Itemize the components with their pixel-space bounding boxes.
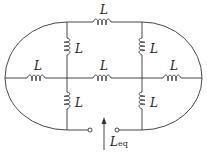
upper-right-vertical-wire [139, 22, 145, 78]
label-middle-right-inductor: L [170, 60, 178, 72]
left-bottom-arc [5, 78, 67, 130]
middle-center-wire [67, 75, 142, 81]
label-middle-center-inductor: L [100, 60, 108, 72]
right-terminal [115, 128, 119, 132]
circuit-wires [0, 0, 207, 153]
lower-left-vertical-wire [64, 78, 70, 130]
middle-left-wire [5, 75, 67, 81]
left-terminal [88, 128, 92, 132]
lower-right-vertical-wire [139, 78, 145, 130]
leq-main: L [110, 135, 118, 149]
circuit-diagram: L L L L L L L L Leq [0, 0, 207, 153]
top-inductor-wire [67, 19, 142, 25]
label-top-inductor: L [100, 4, 108, 16]
label-leq: Leq [110, 136, 128, 148]
label-upper-right-inductor: L [150, 43, 158, 55]
leq-arrow-head [102, 117, 107, 124]
upper-left-vertical-wire [64, 22, 70, 78]
middle-right-wire [142, 75, 202, 81]
label-lower-left-inductor: L [75, 97, 83, 109]
leq-subscript: eq [118, 139, 128, 148]
label-lower-right-inductor: L [150, 97, 158, 109]
label-middle-left-inductor: L [34, 60, 42, 72]
label-upper-left-inductor: L [75, 43, 83, 55]
